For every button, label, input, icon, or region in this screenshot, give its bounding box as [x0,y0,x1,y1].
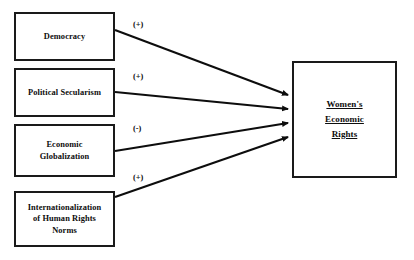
node-internationalization-human-rights-norms-label: Internationalization of Human Rights Nor… [25,202,105,237]
node-economic-globalization-label: Economic Globalization [37,139,93,162]
node-political-secularism-label: Political Secularism [25,87,104,99]
node-economic-globalization: Economic Globalization [14,124,115,177]
edge-sign-economic-globalization: (-) [133,124,141,133]
node-democracy: Democracy [14,12,115,61]
node-democracy-label: Democracy [41,31,88,43]
node-womens-economic-rights: Women's Economic Rights [292,61,397,178]
arrow-democracy-to-outcome [115,30,288,95]
node-political-secularism: Political Secularism [14,68,115,117]
node-internationalization-human-rights-norms: Internationalization of Human Rights Nor… [14,191,115,247]
diagram-canvas: Democracy Political Secularism Economic … [0,0,414,260]
edge-sign-democracy: (+) [133,20,143,29]
edge-sign-political-secularism: (+) [133,72,143,81]
arrow-political-secularism-to-outcome [115,92,288,109]
edge-sign-internationalization: (+) [133,173,143,182]
node-womens-economic-rights-label: Women's Economic Rights [322,97,367,142]
